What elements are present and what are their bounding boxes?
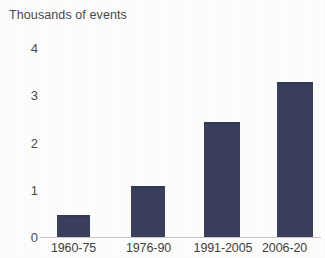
bar-chart-figure: Thousands of events 4 3 2 1 0 1960-75 19… <box>0 0 325 258</box>
x-tick-label-1991-2005: 1991-2005 <box>184 241 262 255</box>
plot-area: 4 3 2 1 0 1960-75 1976-90 1991-2005 2006… <box>0 0 325 258</box>
bar-top-edge <box>204 122 240 124</box>
bar-1991-2005 <box>204 122 240 237</box>
y-tick-label-4: 4 <box>12 42 38 55</box>
y-tick-label-2: 2 <box>12 136 38 149</box>
y-axis: 4 3 2 1 0 <box>0 0 38 258</box>
y-tick-label-1: 1 <box>12 183 38 196</box>
bar-top-edge <box>131 186 165 188</box>
x-tick-label-1960-75: 1960-75 <box>36 241 111 255</box>
x-tick-label-2006-20: 2006-20 <box>262 241 325 255</box>
y-tick-label-3: 3 <box>12 89 38 102</box>
y-tick-label-0: 0 <box>12 231 38 244</box>
bar-1976-90 <box>131 186 165 237</box>
x-axis-baseline <box>40 237 321 238</box>
x-tick-label-1976-90: 1976-90 <box>111 241 186 255</box>
bar-1960-75 <box>57 215 90 237</box>
bar-top-edge <box>277 82 313 84</box>
bar-2006-20 <box>277 82 313 237</box>
bar-top-edge <box>57 215 90 217</box>
